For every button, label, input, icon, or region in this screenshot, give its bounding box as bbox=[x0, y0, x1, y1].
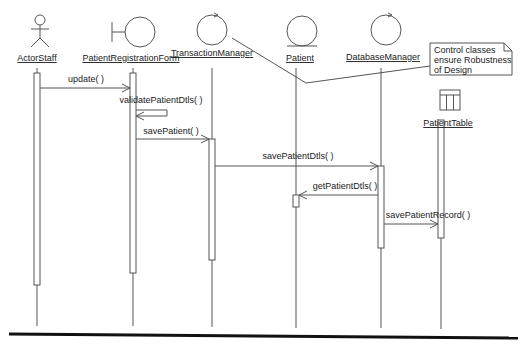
message-label: savePatient( ) bbox=[143, 126, 199, 136]
message-label: getPatientDtls( ) bbox=[313, 181, 378, 191]
activation-patient bbox=[293, 195, 299, 207]
lifeline-label: PatientTable bbox=[423, 118, 473, 128]
table-icon bbox=[440, 90, 460, 110]
note-text: of Design bbox=[434, 65, 472, 75]
entity-icon bbox=[287, 16, 317, 46]
boundary-icon bbox=[112, 17, 155, 47]
message-getPatientDtls bbox=[299, 191, 378, 199]
activation-tm bbox=[209, 139, 215, 260]
sequence-diagram: ActorStaff PatientRegistrationForm Trans… bbox=[0, 0, 530, 344]
message-savePatient bbox=[136, 135, 209, 143]
note-text: Control classes bbox=[434, 45, 496, 55]
message-label: savePatientRecord( ) bbox=[386, 210, 471, 220]
message-savePatientRecord bbox=[384, 220, 438, 228]
activation-dbm bbox=[378, 166, 384, 248]
bottom-rule bbox=[9, 334, 518, 338]
lifeline-label: DatabaseManager bbox=[346, 52, 420, 62]
message-label: savePatientDtls( ) bbox=[262, 151, 333, 161]
note-text: ensure Robustness bbox=[434, 55, 512, 65]
activation-actor bbox=[34, 73, 40, 285]
control-icon bbox=[371, 13, 401, 45]
activation-table bbox=[438, 120, 444, 238]
message-update bbox=[40, 84, 130, 92]
actor-icon bbox=[31, 15, 49, 47]
lifeline-label: ActorStaff bbox=[17, 53, 57, 63]
lifeline-label: PatientRegistrationForm bbox=[82, 53, 179, 63]
message-label: validatePatientDtls( ) bbox=[119, 95, 202, 105]
lifeline-label: Patient bbox=[286, 53, 315, 63]
message-validate bbox=[136, 110, 167, 120]
lifeline-label: TransactionManager bbox=[171, 48, 253, 58]
message-label: update( ) bbox=[68, 74, 104, 84]
control-icon bbox=[197, 13, 227, 45]
